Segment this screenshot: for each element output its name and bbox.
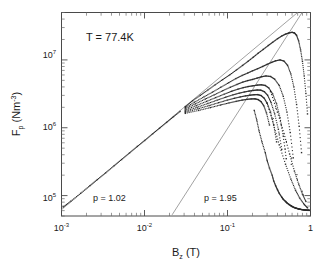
y-tickexp-1: 6 xyxy=(53,121,57,127)
svg-text:10-3: 10-3 xyxy=(54,222,70,233)
plot-frame xyxy=(62,13,311,217)
svg-text:10-2: 10-2 xyxy=(137,222,153,233)
x-ticklabel-2: 10 xyxy=(220,223,230,233)
x-tickexp-2: -1 xyxy=(230,222,236,228)
y-title-unit-close: ) xyxy=(10,92,22,96)
chart-canvas: 10-3 10-2 10-1 1 107 106 105 xyxy=(0,0,323,267)
x-ticklabel-3: 1 xyxy=(308,223,313,233)
x-ticklabel-0: 10 xyxy=(54,223,64,233)
y-ticklabel-1: 10 xyxy=(43,122,53,132)
figure-container: 10-3 10-2 10-1 1 107 106 105 xyxy=(0,0,323,267)
x-axis-ticks xyxy=(62,13,311,217)
svg-text:106: 106 xyxy=(43,121,57,132)
x-title-unit: (T) xyxy=(183,246,200,258)
x-tickexp-1: -2 xyxy=(147,222,153,228)
x-axis-title: Bz (T) xyxy=(172,246,200,260)
y-axis-ticks xyxy=(62,13,311,217)
y-ticklabel-0: 10 xyxy=(43,50,53,60)
p-high-annotation: p = 1.95 xyxy=(204,193,237,203)
y-ticklabel-2: 10 xyxy=(43,193,53,203)
y-title-unit: (Nm xyxy=(10,102,22,126)
y-axis-title: Fp (Nm-3) xyxy=(10,92,25,136)
x-tickexp-0: -3 xyxy=(64,222,70,228)
svg-text:107: 107 xyxy=(43,49,57,60)
y-tick-labels: 107 106 105 xyxy=(43,49,57,203)
svg-text:1: 1 xyxy=(308,223,313,233)
plot-annotations: T = 77.4K p = 1.02 p = 1.95 xyxy=(86,31,237,203)
y-tickexp-0: 7 xyxy=(53,49,57,55)
svg-text:Bz (T): Bz (T) xyxy=(172,246,200,260)
temperature-annotation: T = 77.4K xyxy=(86,31,134,43)
x-ticklabel-1: 10 xyxy=(137,223,147,233)
svg-text:105: 105 xyxy=(43,192,57,203)
x-tick-labels: 10-3 10-2 10-1 1 xyxy=(54,222,313,233)
p-low-annotation: p = 1.02 xyxy=(93,193,126,203)
svg-text:Fp (Nm-3): Fp (Nm-3) xyxy=(10,92,25,136)
x-title-main: B xyxy=(172,246,179,258)
y-tickexp-2: 5 xyxy=(53,192,57,198)
svg-text:10-1: 10-1 xyxy=(220,222,236,233)
